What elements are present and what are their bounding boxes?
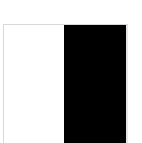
white-panel xyxy=(4,25,64,143)
color-swatch-frame xyxy=(3,24,128,143)
black-panel xyxy=(64,25,128,143)
